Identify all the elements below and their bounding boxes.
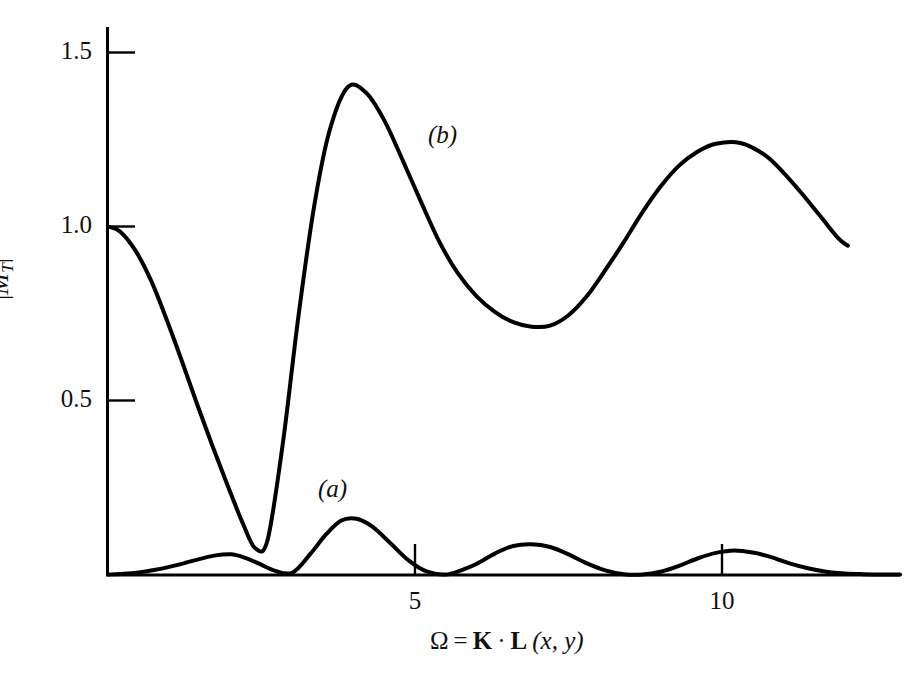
y-title-subscript-t: T: [0, 263, 17, 273]
x-tick-label-10: 10: [692, 588, 752, 613]
y-title-superscript-2: 2: [0, 250, 3, 258]
y-tick-label-1.5: 1.5: [22, 38, 92, 63]
y-title-close-bar: |: [0, 258, 14, 263]
x-tick-label-5: 5: [385, 588, 445, 613]
x-title-dot: ·: [497, 627, 505, 654]
x-title-l: L: [511, 627, 528, 654]
curve-b-path: [108, 84, 848, 551]
x-axis-title: Ω = K · L (x, y): [430, 628, 584, 653]
figure-container: 1.5 1.0 0.5 5 10 |MT|2 Ω = K · L (x, y) …: [0, 0, 921, 674]
y-tick-label-1.0: 1.0: [22, 212, 92, 237]
y-tick-label-0.5: 0.5: [22, 386, 92, 411]
curve-a-annotation: (a): [318, 476, 347, 501]
curve-a-path: [108, 518, 900, 575]
x-title-args: (x, y): [532, 627, 583, 654]
y-title-open-bar: |: [0, 295, 14, 300]
x-title-equals: =: [454, 627, 468, 654]
curve-b-annotation: (b): [428, 122, 457, 147]
y-axis-title: |MT|2: [0, 250, 16, 300]
axis-lines: [106, 27, 900, 576]
x-title-k: K: [473, 627, 492, 654]
y-title-m: M: [0, 273, 14, 295]
x-title-omega: Ω: [430, 627, 449, 654]
plot-canvas: [0, 0, 921, 674]
